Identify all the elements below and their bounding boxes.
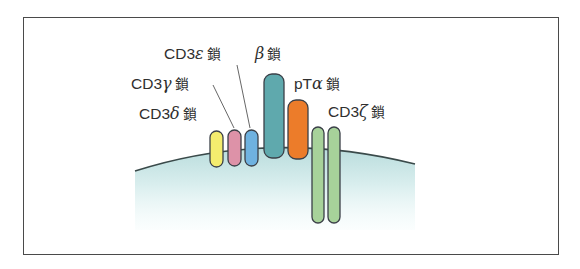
label-beta: β鎖 — [255, 46, 281, 62]
label-suffix: 鎖 — [183, 106, 197, 122]
label-greek: ζ — [359, 102, 368, 121]
label-prefix: pT — [294, 75, 312, 92]
label-pt-alpha: pTα鎖 — [294, 76, 340, 92]
cd3-zeta-chain-1 — [312, 127, 324, 223]
label-suffix: 鎖 — [326, 76, 340, 92]
label-greek: γ — [162, 74, 172, 93]
tcr-diagram — [0, 0, 580, 269]
label-greek: δ — [170, 104, 180, 123]
cd3-zeta-chain-2 — [328, 127, 340, 223]
pointer-line-epsilon — [237, 65, 250, 128]
label-prefix: CD3 — [139, 105, 170, 122]
label-cd3-gamma: CD3γ鎖 — [131, 76, 189, 92]
cd3-gamma-chain — [228, 130, 241, 166]
label-suffix: 鎖 — [207, 46, 221, 62]
label-cd3-delta: CD3δ鎖 — [139, 106, 197, 122]
label-prefix: CD3 — [131, 75, 162, 92]
label-greek: α — [312, 74, 323, 93]
label-suffix: 鎖 — [175, 76, 189, 92]
pointer-line-gamma — [213, 85, 234, 128]
label-cd3-epsilon: CD3ε鎖 — [164, 46, 221, 62]
label-suffix: 鎖 — [267, 46, 281, 62]
label-suffix: 鎖 — [371, 104, 385, 120]
label-greek: ε — [195, 44, 204, 63]
pt-alpha-chain — [288, 100, 308, 159]
label-cd3-zeta: CD3ζ鎖 — [328, 104, 385, 120]
cd3-delta-chain — [210, 131, 223, 167]
cd3-epsilon-chain — [245, 130, 258, 166]
label-greek: β — [255, 44, 264, 63]
label-prefix: CD3 — [328, 103, 359, 120]
label-prefix: CD3 — [164, 45, 195, 62]
beta-chain — [264, 74, 284, 158]
